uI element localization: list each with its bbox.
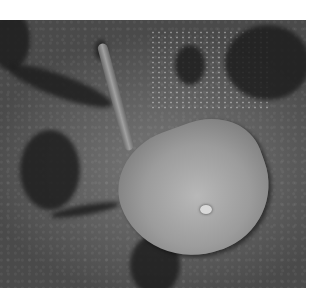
seaweed-clump <box>225 25 306 100</box>
ray-photo <box>0 20 306 288</box>
seaweed-clump <box>20 130 80 210</box>
ray-spiracle <box>200 205 212 214</box>
seaweed-clump <box>175 45 205 85</box>
